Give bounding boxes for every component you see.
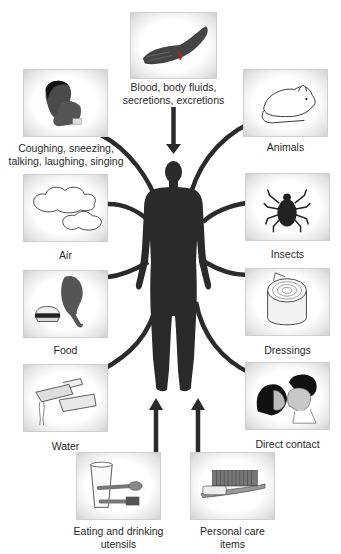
source-box-utensils	[76, 452, 161, 520]
label-air: Air	[23, 249, 108, 262]
source-box-dressings	[245, 268, 330, 336]
label-insects: Insects	[245, 248, 330, 261]
label-line: Blood, body fluids,	[115, 81, 232, 94]
source-box-insects	[245, 173, 330, 241]
label-line: utensils	[60, 538, 177, 551]
label-utensils: Eating and drinking utensils	[60, 525, 177, 550]
clouds-icon	[24, 175, 107, 241]
label-line: secretions, excretions	[115, 94, 232, 107]
source-box-air	[23, 174, 108, 242]
label-coughing: Coughing, sneezing, talking, laughing, s…	[0, 142, 132, 167]
bandage-roll-icon	[246, 269, 329, 335]
tick-icon	[246, 174, 329, 240]
rat-icon	[244, 70, 327, 136]
couple-kissing-icon	[246, 363, 329, 429]
label-dressings: Dressings	[245, 344, 330, 357]
bleeding-hand-icon	[131, 13, 216, 78]
source-box-coughing	[23, 69, 108, 137]
label-line: Coughing, sneezing,	[0, 142, 132, 155]
label-animals: Animals	[243, 141, 328, 154]
source-box-blood	[130, 12, 217, 79]
label-water: Water	[23, 440, 108, 453]
label-food: Food	[23, 344, 108, 357]
source-box-animals	[243, 69, 328, 137]
person-coughing-icon	[24, 70, 107, 136]
label-direct-contact: Direct contact	[245, 438, 330, 451]
label-line: items	[174, 538, 291, 551]
faucet-icon	[24, 365, 107, 431]
glass-spoon-toothbrush-icon	[77, 453, 160, 519]
label-personal-care: Personal care items	[174, 525, 291, 550]
comb-and-toothbrush-icon	[191, 453, 274, 519]
label-blood: Blood, body fluids, secretions, excretio…	[115, 81, 232, 106]
label-line: talking, laughing, singing	[0, 155, 132, 168]
source-box-water	[23, 364, 108, 432]
chicken-leg-and-burger-icon	[24, 271, 107, 337]
label-line: Eating and drinking	[60, 525, 177, 538]
source-box-direct-contact	[245, 362, 330, 430]
label-line: Personal care	[174, 525, 291, 538]
source-box-personal-care	[190, 452, 275, 520]
source-box-food	[23, 270, 108, 338]
